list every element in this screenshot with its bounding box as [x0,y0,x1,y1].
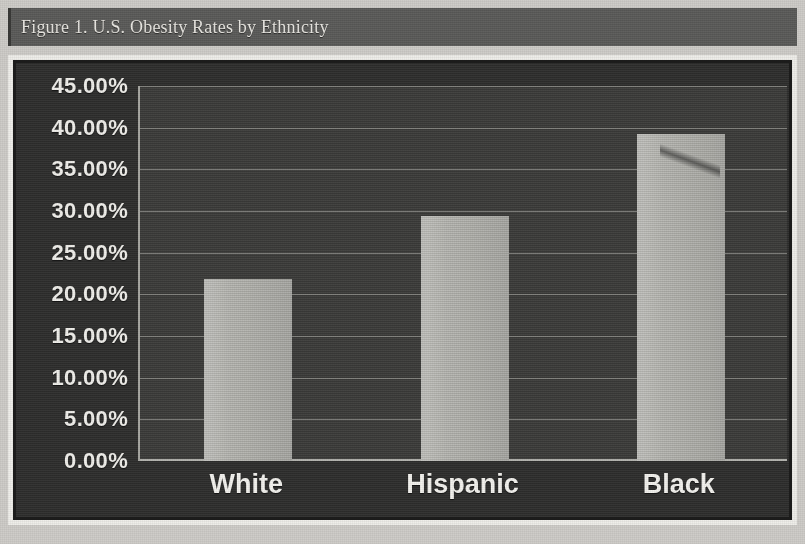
x-axis-tick-label: White [209,469,283,500]
x-axis-labels: WhiteHispanicBlack [138,469,787,517]
bar-hispanic [421,216,509,461]
y-axis-labels: 45.00%40.00%35.00%30.00%25.00%20.00%15.0… [16,63,136,517]
figure-caption-text: Figure 1. U.S. Obesity Rates by Ethnicit… [21,17,329,38]
bars [140,86,787,461]
y-axis-tick-label: 25.00% [52,240,128,266]
x-axis-tick-label: Hispanic [406,469,519,500]
y-axis-tick-label: 40.00% [52,115,128,141]
y-axis-tick-label: 0.00% [64,448,128,474]
y-axis-tick-label: 30.00% [52,198,128,224]
figure-page: Figure 1. U.S. Obesity Rates by Ethnicit… [0,0,805,544]
y-axis-tick-label: 5.00% [64,406,128,432]
y-axis-tick-label: 35.00% [52,156,128,182]
bar-white [204,279,292,461]
y-axis-tick-label: 20.00% [52,281,128,307]
plot-area [138,86,787,461]
y-axis-tick-label: 10.00% [52,365,128,391]
chart-canvas: 45.00%40.00%35.00%30.00%25.00%20.00%15.0… [13,60,792,520]
x-axis-tick-label: Black [643,469,715,500]
y-axis-tick-label: 15.00% [52,323,128,349]
chart-frame: 45.00%40.00%35.00%30.00%25.00%20.00%15.0… [8,55,797,525]
y-axis-tick-label: 45.00% [52,73,128,99]
figure-caption-bar: Figure 1. U.S. Obesity Rates by Ethnicit… [8,8,797,46]
bar-black [637,134,725,462]
